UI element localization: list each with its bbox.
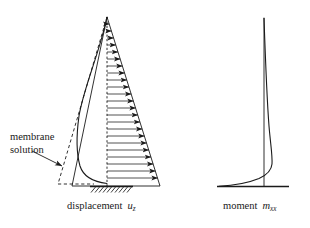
caption-moment-subscript: xx (270, 205, 277, 213)
moment-panel (217, 18, 289, 187)
caption-moment: momentmxx (223, 200, 277, 213)
triangle-left-edge (72, 17, 107, 186)
annotation-membrane-line1: membrane (10, 131, 54, 144)
displacement-curve (77, 17, 107, 184)
membrane-envelope-line (58, 17, 107, 184)
caption-displacement: displacementuz (67, 200, 136, 213)
caption-displacement-text: displacement (67, 200, 122, 211)
support-hatching (91, 187, 132, 193)
annotation-membrane-line2: solution (10, 144, 54, 157)
caption-moment-text: moment (223, 200, 257, 211)
triangle-right-edge (107, 17, 160, 186)
annotation-membrane-solution: membrane solution (10, 131, 54, 157)
displacement-panel (32, 17, 160, 193)
fixed-support (90, 187, 133, 193)
caption-moment-symbol: m (262, 200, 270, 211)
structural-analysis-figure (0, 0, 310, 228)
caption-displacement-subscript: z (133, 205, 136, 213)
